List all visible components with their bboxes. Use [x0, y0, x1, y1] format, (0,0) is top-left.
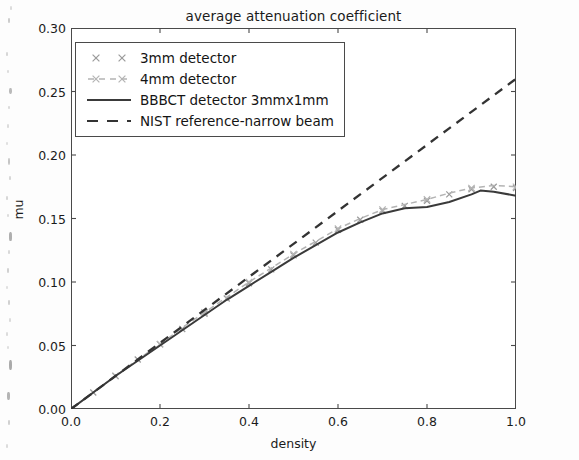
chart-legend: 3mm detector4mm detectorBBBCT detector 3… — [75, 42, 345, 137]
y-tick-label: 0.15 — [22, 211, 66, 226]
legend-x-marker-dashed-light-icon — [82, 71, 136, 87]
x-tick-label: 0.0 — [41, 414, 101, 429]
x-tick-label: 0.6 — [308, 414, 368, 429]
legend-item[interactable]: BBBCT detector 3mmx1mm — [82, 89, 338, 110]
legend-item-label: NIST reference-narrow beam — [136, 113, 334, 129]
legend-item[interactable]: 4mm detector — [82, 68, 338, 89]
figure-page: average attenuation coefficient 0.000.05… — [0, 0, 579, 460]
x-axis-label: density — [71, 436, 516, 451]
series-bbbct-detector-3mmx1mm — [71, 191, 516, 409]
y-tick-label: 0.20 — [22, 148, 66, 163]
x-tick-label: 0.8 — [397, 414, 457, 429]
legend-dashed-line-dark-icon — [82, 113, 136, 129]
chart-title: average attenuation coefficient — [71, 8, 516, 24]
x-tick-label: 0.2 — [130, 414, 190, 429]
legend-item[interactable]: NIST reference-narrow beam — [82, 110, 338, 131]
legend-item[interactable]: 3mm detector — [82, 47, 338, 68]
x-tick-label: 1.0 — [486, 414, 546, 429]
y-tick-label: 0.05 — [22, 338, 66, 353]
legend-item-label: 4mm detector — [136, 71, 236, 87]
x-axis-tick-labels: 0.00.20.40.60.81.0 — [0, 414, 579, 436]
y-axis-tick-labels: 0.000.050.100.150.200.250.30 — [18, 0, 66, 460]
y-tick-label: 0.30 — [22, 21, 66, 36]
y-tick-label: 0.10 — [22, 275, 66, 290]
legend-solid-line-dark-icon — [82, 92, 136, 108]
y-axis-label: mu — [11, 190, 26, 230]
legend-item-label: 3mm detector — [136, 50, 236, 66]
x-tick-label: 0.4 — [219, 414, 279, 429]
series-4mm-detector — [71, 184, 516, 409]
series-3mm-detector — [71, 184, 516, 409]
chart-figure: average attenuation coefficient 0.000.05… — [0, 0, 579, 460]
legend-x-marker-gray-icon — [82, 50, 136, 66]
y-tick-label: 0.25 — [22, 84, 66, 99]
legend-item-label: BBBCT detector 3mmx1mm — [136, 92, 329, 108]
